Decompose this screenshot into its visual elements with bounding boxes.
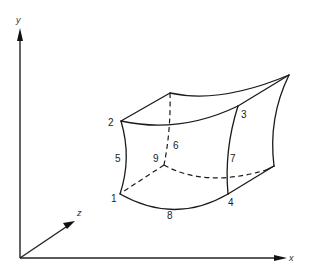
- y-axis-label: y: [15, 15, 21, 25]
- x-axis-arrowhead-icon: [274, 255, 287, 261]
- curved-hexahedral-element: [120, 75, 289, 210]
- y-axis-arrowhead-icon: [17, 28, 23, 41]
- edge-3-to-far-corner: [238, 75, 289, 106]
- coordinate-axes: y x z: [15, 15, 294, 263]
- node-label-7: 7: [230, 153, 236, 164]
- edge-4-to-back-bottom: [228, 166, 274, 194]
- node-label-4: 4: [228, 197, 234, 208]
- node-label-2: 2: [108, 117, 114, 128]
- edge-2-to-3-top-front: [121, 106, 238, 125]
- hidden-edge-9-to-back-right: [164, 165, 266, 178]
- edge-2-to-1-through-5: [120, 121, 126, 194]
- edge-back-bottom-tick: [266, 166, 274, 170]
- edge-3-to-4-through-7: [227, 106, 238, 194]
- z-axis: [20, 227, 66, 258]
- hidden-edge-6-vertical: [164, 93, 170, 165]
- z-axis-label: z: [76, 208, 82, 218]
- edge-far-corner-to-back-bottom: [273, 75, 289, 166]
- edge-2-to-top-back: [121, 93, 170, 121]
- node-label-5: 5: [115, 153, 121, 164]
- diagram-canvas: y x z: [0, 0, 309, 274]
- node-label-8: 8: [167, 210, 173, 221]
- node-label-3: 3: [241, 109, 247, 120]
- x-axis-label: x: [288, 253, 294, 263]
- node-label-1: 1: [111, 193, 117, 204]
- node-labels: 1 2 3 4 5 6 7 8 9: [108, 109, 247, 221]
- node-label-9: 9: [153, 153, 159, 164]
- node-label-6: 6: [173, 140, 179, 151]
- hidden-edge-9-to-1: [121, 165, 164, 193]
- edge-1-to-4-through-8: [120, 194, 228, 210]
